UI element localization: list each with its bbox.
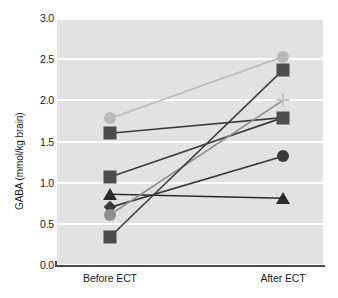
marker-after-triangle-dark — [276, 192, 290, 204]
marker-before-subject-4 — [103, 188, 117, 200]
marker-after-circle-light — [277, 51, 289, 63]
marker-before-subject-7 — [104, 231, 117, 244]
marker-after-cross-light-v — [282, 94, 284, 107]
marker-before-subject-1 — [104, 112, 116, 124]
marker-after-square-dark-mid — [277, 111, 290, 124]
marker-before-subject-3 — [104, 170, 117, 183]
gaba-ect-line-chart: GABA (mmol/kg brain) 0.0 0.5 1.0 1.5 2.0… — [0, 0, 338, 298]
series-markers-layer — [0, 0, 338, 298]
marker-before-subject-6 — [104, 209, 116, 221]
x-tick-after-ect: After ECT — [260, 272, 305, 284]
marker-before-subject-2 — [104, 127, 117, 140]
x-tick-before-ect: Before ECT — [83, 272, 137, 284]
marker-after-circle-dark — [277, 150, 289, 162]
marker-after-square-dark-top — [277, 63, 290, 76]
